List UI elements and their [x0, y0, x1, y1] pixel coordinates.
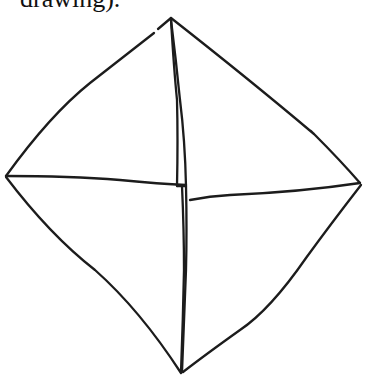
edge-bottom-right [183, 185, 361, 372]
edge-top-left [6, 18, 171, 176]
diamond-drawing [0, 0, 367, 378]
horizontal-divider-left [6, 176, 186, 185]
horizontal-divider-right [190, 183, 360, 200]
vertical-divider-b [171, 20, 187, 372]
edge-bottom-left [6, 177, 181, 373]
edge-top-right [171, 18, 360, 183]
